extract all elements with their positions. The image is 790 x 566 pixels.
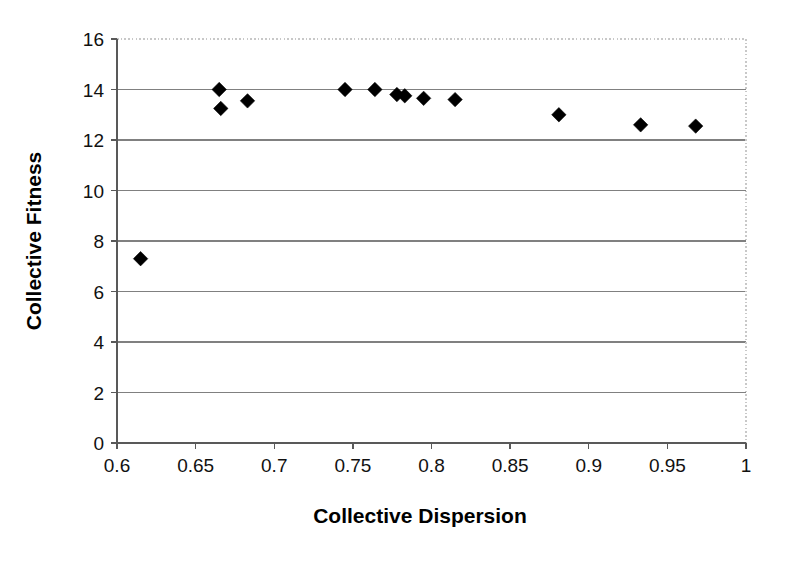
y-tick-label-12: 12 xyxy=(83,130,104,151)
x-tick-label-1: 1 xyxy=(741,455,752,476)
y-tick-label-0: 0 xyxy=(93,433,104,454)
y-tick-label-16: 16 xyxy=(83,29,104,50)
x-tick-label-0.75: 0.75 xyxy=(334,455,371,476)
x-tick-label-0.7: 0.7 xyxy=(261,455,287,476)
x-tick-label-0.6: 0.6 xyxy=(104,455,130,476)
x-axis-tick-labels: 0.60.650.70.750.80.850.90.951 xyxy=(104,455,752,476)
x-tick-label-0.95: 0.95 xyxy=(649,455,686,476)
y-tick-label-4: 4 xyxy=(93,332,104,353)
x-tick-label-0.9: 0.9 xyxy=(576,455,602,476)
chart-background xyxy=(0,0,790,566)
y-tick-label-14: 14 xyxy=(83,80,105,101)
x-tick-label-0.85: 0.85 xyxy=(492,455,529,476)
x-axis-title: Collective Dispersion xyxy=(313,504,527,527)
scatter-chart-figure: 0246810121416 0.60.650.70.750.80.850.90.… xyxy=(0,0,790,566)
x-tick-label-0.65: 0.65 xyxy=(177,455,214,476)
y-axis-title: Collective Fitness xyxy=(22,152,45,331)
y-tick-label-8: 8 xyxy=(93,231,104,252)
chart-canvas: 0246810121416 0.60.650.70.750.80.850.90.… xyxy=(0,0,790,566)
y-tick-label-10: 10 xyxy=(83,181,104,202)
x-tick-label-0.8: 0.8 xyxy=(418,455,444,476)
y-tick-label-6: 6 xyxy=(93,282,104,303)
y-tick-label-2: 2 xyxy=(93,383,104,404)
